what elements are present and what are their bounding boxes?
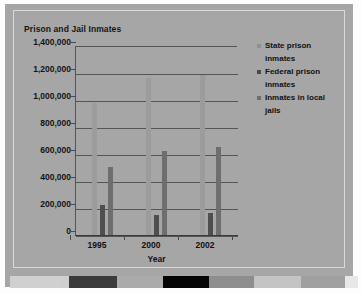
x-axis-line: [75, 235, 238, 236]
legend-swatch-icon: [257, 44, 261, 48]
legend-label-line1: State prison: [265, 40, 311, 53]
x-axis-title: Year: [75, 254, 238, 264]
legend-swatch-icon: [257, 96, 261, 100]
bottom-color-strip: [10, 276, 358, 288]
strip-segment: [117, 276, 163, 288]
strip-segment: [163, 276, 209, 288]
legend-item-label: Inmates in localjails: [265, 92, 325, 117]
y-axis-tick-mark: [71, 204, 76, 205]
chart-legend: State prisoninmatesFederal prisoninmates…: [257, 40, 349, 118]
x-axis-tick-mark: [232, 235, 233, 240]
y-axis-tick-mark: [71, 96, 76, 97]
strip-segment: [10, 276, 61, 288]
y-axis-tick-mark: [71, 42, 76, 43]
chart-slide: Prison and Jail Inmates 1,400,0001,200,0…: [5, 4, 353, 287]
y-axis-tick-mark: [71, 69, 76, 70]
bar: [216, 147, 221, 235]
legend-item[interactable]: State prisoninmates: [257, 40, 349, 65]
legend-label-line2: inmates: [265, 53, 311, 66]
bar: [108, 167, 113, 235]
strip-segment: [254, 276, 301, 288]
x-axis-tick-mark: [178, 235, 179, 240]
legend-item[interactable]: Federal prisoninmates: [257, 66, 349, 91]
x-axis-tick-label: 2000: [126, 240, 176, 250]
y-axis-tick-label: 600,000: [13, 145, 71, 155]
legend-label-line1: Inmates in local: [265, 92, 325, 105]
legend-label-line2: jails: [265, 105, 325, 118]
y-axis-tick-label: 400,000: [13, 172, 71, 182]
strip-segment: [209, 276, 254, 288]
y-axis-tick-label: 1,200,000: [13, 64, 71, 74]
gridline: [76, 236, 238, 237]
legend-item-label: Federal prisoninmates: [265, 66, 320, 91]
bars-layer: [75, 46, 237, 235]
y-axis-labels: 1,400,0001,200,0001,000,000800,000600,00…: [11, 4, 71, 294]
x-axis-tick-mark: [70, 235, 71, 240]
bar: [100, 205, 105, 235]
legend-label-line2: inmates: [265, 79, 320, 92]
strip-segment: [345, 276, 358, 288]
bar: [154, 215, 159, 235]
legend-item[interactable]: Inmates in localjails: [257, 92, 349, 117]
y-axis-tick-mark: [71, 177, 76, 178]
y-axis-tick-mark: [71, 231, 76, 232]
y-axis-tick-label: 200,000: [13, 199, 71, 209]
y-axis-tick-mark: [71, 150, 76, 151]
screenshot-root: Prison and Jail Inmates 1,400,0001,200,0…: [0, 0, 361, 294]
x-axis-tick-label: 2002: [180, 240, 230, 250]
legend-label-line1: Federal prison: [265, 66, 320, 79]
y-axis-tick-label: 800,000: [13, 118, 71, 128]
bar: [92, 103, 97, 235]
strip-segment: [69, 276, 117, 288]
x-axis-tick-label: 1995: [72, 240, 122, 250]
legend-item-label: State prisoninmates: [265, 40, 311, 65]
bar: [162, 151, 167, 235]
legend-swatch-icon: [257, 70, 261, 74]
bar: [146, 78, 151, 235]
x-axis-tick-mark: [124, 235, 125, 240]
bar: [208, 213, 213, 235]
y-axis-tick-label: 0: [13, 226, 71, 236]
strip-segment: [61, 276, 69, 288]
strip-segment: [301, 276, 345, 288]
bar: [200, 75, 205, 235]
y-axis-tick-mark: [71, 123, 76, 124]
y-axis-tick-label: 1,400,000: [13, 37, 71, 47]
y-axis-tick-label: 1,000,000: [13, 91, 71, 101]
